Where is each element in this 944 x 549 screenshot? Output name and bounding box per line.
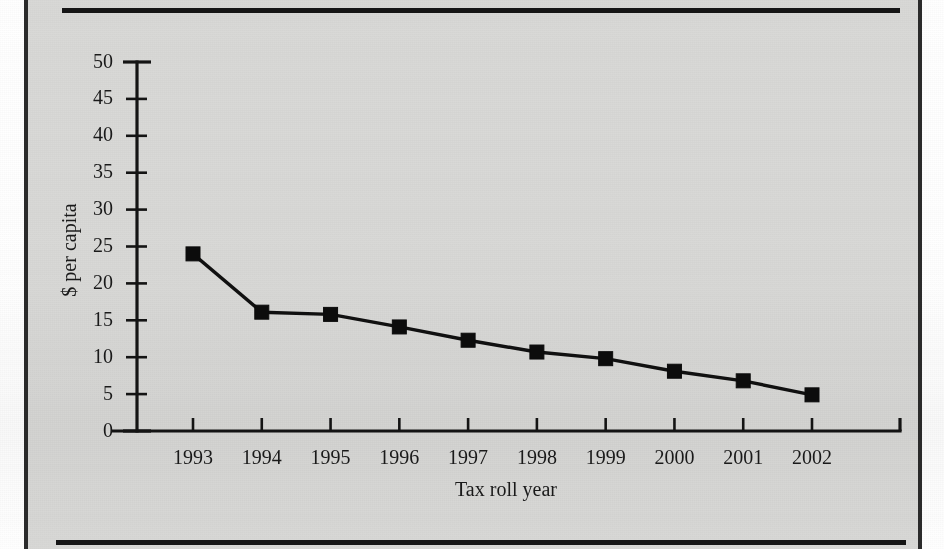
- x-tick-label: 1996: [379, 446, 419, 468]
- data-point-marker: [186, 247, 200, 261]
- y-axis-title: $ per capita: [58, 203, 81, 296]
- data-point-marker: [324, 307, 338, 321]
- data-point-marker: [392, 320, 406, 334]
- x-tick-label: 1997: [448, 446, 488, 468]
- x-tick-label: 2002: [792, 446, 832, 468]
- x-axis-title: Tax roll year: [455, 478, 557, 501]
- y-tick-label: 35: [93, 160, 113, 182]
- data-point-marker: [461, 333, 475, 347]
- y-tick-label: 15: [93, 308, 113, 330]
- data-point-marker: [736, 374, 750, 388]
- y-tick-label: 50: [93, 50, 113, 72]
- data-point-marker: [255, 305, 269, 319]
- x-tick-label: 2001: [723, 446, 763, 468]
- y-tick-label: 25: [93, 234, 113, 256]
- y-axis-ticks: 05101520253035404550: [93, 50, 151, 441]
- scanned-figure-page: $ per capita 05101520253035404550 199319…: [0, 0, 944, 549]
- x-tick-label: 1993: [173, 446, 213, 468]
- chart-canvas: $ per capita 05101520253035404550 199319…: [0, 0, 944, 549]
- series-line-dollars-per-capita: [193, 254, 812, 395]
- x-axis-ticks: 1993199419951996199719981999200020012002: [173, 418, 900, 468]
- y-tick-label: 40: [93, 123, 113, 145]
- data-point-marker: [667, 364, 681, 378]
- y-tick-label: 45: [93, 86, 113, 108]
- y-tick-label: 30: [93, 197, 113, 219]
- x-tick-label: 1994: [242, 446, 282, 468]
- x-tick-label: 2000: [654, 446, 694, 468]
- x-tick-label: 1999: [586, 446, 626, 468]
- data-point-marker: [530, 345, 544, 359]
- data-point-marker: [805, 388, 819, 402]
- x-tick-label: 1998: [517, 446, 557, 468]
- y-tick-label: 0: [103, 419, 113, 441]
- data-point-marker: [599, 352, 613, 366]
- y-tick-label: 10: [93, 345, 113, 367]
- y-tick-label: 5: [103, 382, 113, 404]
- y-tick-label: 20: [93, 271, 113, 293]
- line-chart: $ per capita 05101520253035404550 199319…: [0, 0, 944, 549]
- x-tick-label: 1995: [311, 446, 351, 468]
